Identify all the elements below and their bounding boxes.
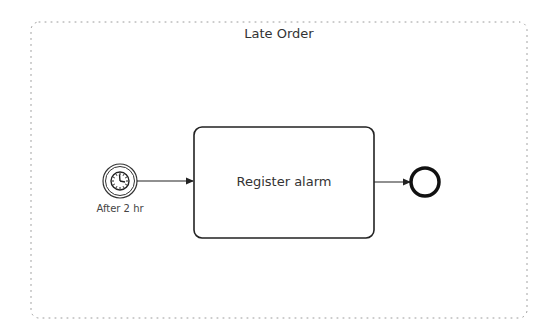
timer-start-event[interactable] (103, 164, 137, 198)
subprocess-title: Late Order (31, 26, 527, 41)
end-event[interactable] (411, 168, 439, 196)
timer-event-label: After 2 hr (80, 203, 160, 214)
clock-icon (111, 172, 129, 190)
task-label: Register alarm (194, 174, 374, 189)
diagram-canvas (0, 0, 554, 335)
